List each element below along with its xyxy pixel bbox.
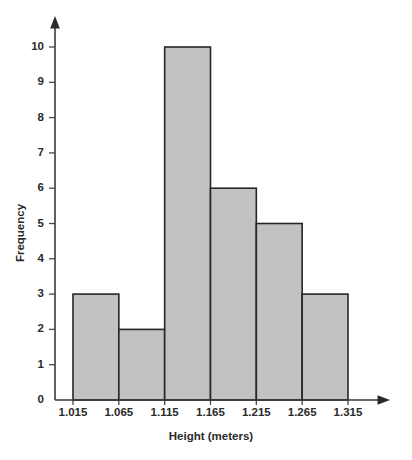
y-axis-tick-label: 10 <box>31 40 44 52</box>
y-axis-tick-label: 4 <box>38 252 45 264</box>
x-axis-tick-label: 1.115 <box>151 406 180 418</box>
histogram-bar <box>256 224 302 401</box>
histogram-bar <box>302 294 348 400</box>
y-axis-tick-label: 1 <box>38 358 45 370</box>
x-axis-tick-label: 1.215 <box>242 406 271 418</box>
x-axis-tick-labels: 1.0151.0651.1151.1651.2151.2651.315 <box>59 406 363 418</box>
y-axis-tick-label: 9 <box>38 75 44 87</box>
x-axis-tick-label: 1.165 <box>196 406 225 418</box>
y-axis-tick-label: 3 <box>38 287 44 299</box>
y-axis-tick-labels: 012345678910 <box>31 40 44 405</box>
y-axis-tick-label: 6 <box>38 181 44 193</box>
x-axis-tick-label: 1.315 <box>334 406 363 418</box>
x-axis-tick-label: 1.015 <box>59 406 88 418</box>
histogram-bar <box>119 329 165 400</box>
y-axis-ticks <box>49 47 55 365</box>
histogram-bar <box>73 294 119 400</box>
histogram-bar <box>165 47 211 400</box>
y-axis-arrowhead <box>50 16 60 29</box>
y-axis-title: Frequency <box>14 203 26 262</box>
y-axis-tick-label: 8 <box>38 111 45 123</box>
x-axis-arrowhead <box>378 395 391 405</box>
y-axis-tick-label: 7 <box>38 146 44 158</box>
y-axis-tick-label: 0 <box>38 393 44 405</box>
bars-group <box>73 47 348 400</box>
y-axis-tick-label: 5 <box>38 217 45 229</box>
histogram-plot: 012345678910 1.0151.0651.1151.1651.2151.… <box>0 0 412 460</box>
histogram-bar <box>211 188 257 400</box>
x-axis-tick-label: 1.065 <box>104 406 133 418</box>
x-axis-tick-label: 1.265 <box>288 406 317 418</box>
x-axis-title: Height (meters) <box>169 430 254 442</box>
y-axis-tick-label: 2 <box>38 322 44 334</box>
histogram-figure: 012345678910 1.0151.0651.1151.1651.2151.… <box>0 0 412 460</box>
